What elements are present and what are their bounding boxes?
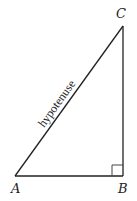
vertex-label-b: B bbox=[117, 181, 128, 196]
hypotenuse-label: hypotenuse bbox=[35, 77, 78, 130]
right-triangle-diagram: C A B hypotenuse bbox=[0, 0, 137, 201]
right-angle-marker bbox=[112, 165, 123, 176]
triangle bbox=[15, 26, 123, 176]
vertex-label-c: C bbox=[116, 6, 126, 21]
side-ac-hypotenuse bbox=[15, 26, 123, 176]
vertex-label-a: A bbox=[10, 181, 20, 196]
